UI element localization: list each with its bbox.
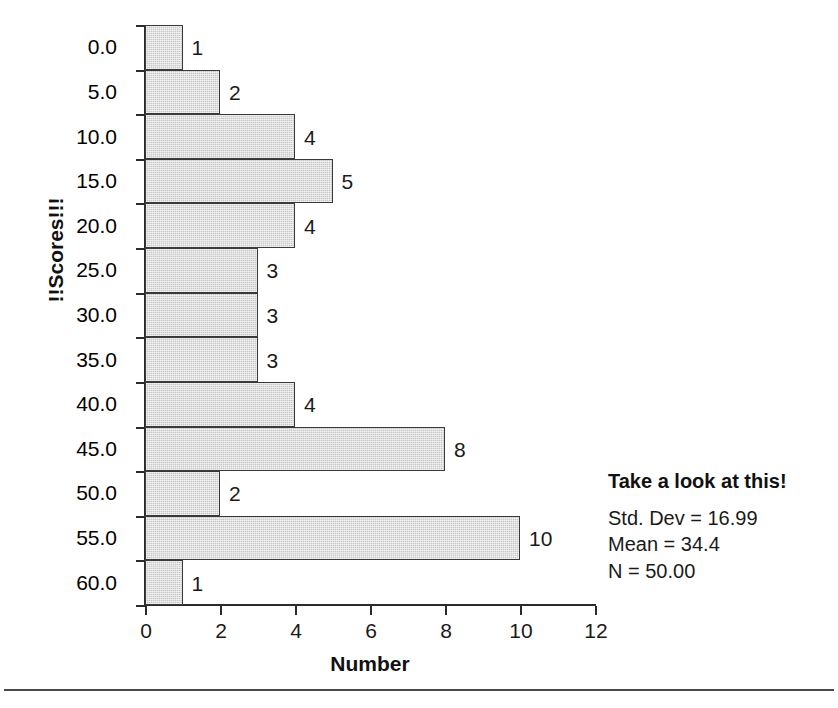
- y-axis-tick: [136, 382, 145, 384]
- bar-row: 3: [145, 293, 595, 338]
- y-axis-tick-label-text: 10.0: [76, 125, 128, 149]
- y-axis-tick-label: 35.0: [0, 337, 128, 382]
- bar[interactable]: [145, 337, 258, 382]
- bar-value-label: 10: [529, 528, 552, 549]
- bar[interactable]: [145, 114, 295, 159]
- stats-line: N = 50.00: [608, 558, 833, 584]
- bar-value-label: 8: [454, 438, 466, 459]
- bar-row: 3: [145, 337, 595, 382]
- bottom-divider-rule: [4, 689, 834, 691]
- y-axis-tick: [136, 516, 145, 518]
- bar-row: 1: [145, 25, 595, 70]
- y-axis-tick-label-text: 40.0: [76, 392, 128, 416]
- y-axis-tick: [136, 159, 145, 161]
- bar[interactable]: [145, 382, 295, 427]
- bar-row: 2: [145, 70, 595, 115]
- y-axis-tick-label: 15.0: [0, 159, 128, 204]
- y-axis-tick-label: 20.0: [0, 203, 128, 248]
- x-axis-tick-label: 0: [140, 620, 152, 641]
- x-axis-title: Number: [145, 652, 595, 676]
- x-axis-tick-label: 12: [584, 620, 607, 641]
- y-axis-tick-label: 10.0: [0, 114, 128, 159]
- bar[interactable]: [145, 25, 183, 70]
- bar-row: 10: [145, 516, 595, 561]
- stats-line: Mean = 34.4: [608, 531, 833, 557]
- plot-area: 12454333482101: [145, 25, 595, 605]
- bar[interactable]: [145, 471, 220, 516]
- y-axis-tick-label-text: 25.0: [76, 258, 128, 282]
- y-axis-tick: [136, 293, 145, 295]
- x-axis-tick: [220, 606, 222, 615]
- y-axis-tick-label: 60.0: [0, 560, 128, 605]
- bar-row: 4: [145, 203, 595, 248]
- bar[interactable]: [145, 516, 520, 561]
- stats-lines: Std. Dev = 16.99Mean = 34.4N = 50.00: [608, 505, 833, 584]
- y-axis-tick: [136, 427, 145, 429]
- y-axis-tick-label: 0.0: [0, 25, 128, 70]
- bar-row: 4: [145, 114, 595, 159]
- bar-value-label: 2: [229, 483, 241, 504]
- y-axis-tick: [136, 560, 145, 562]
- bar-row: 1: [145, 560, 595, 605]
- y-axis-tick-label: 30.0: [0, 293, 128, 338]
- y-axis-tick: [136, 70, 145, 72]
- x-axis-tick: [445, 606, 447, 615]
- bar-value-label: 4: [304, 215, 316, 236]
- y-axis-tick: [136, 114, 145, 116]
- bar-value-label: 3: [267, 260, 279, 281]
- x-axis-tick: [145, 606, 147, 615]
- y-axis-tick: [136, 605, 145, 607]
- bar-value-label: 3: [267, 304, 279, 325]
- y-axis-tick-label-text: 35.0: [76, 348, 128, 372]
- bar-value-label: 3: [267, 349, 279, 370]
- histogram-figure: !!Scores!!! 0.05.010.015.020.025.030.035…: [0, 0, 838, 708]
- x-axis-tick-label: 4: [290, 620, 302, 641]
- y-axis-tick-label-text: 30.0: [76, 303, 128, 327]
- bar-value-label: 2: [229, 81, 241, 102]
- y-axis-tick-label: 25.0: [0, 248, 128, 293]
- y-axis-tick: [136, 248, 145, 250]
- bar[interactable]: [145, 203, 295, 248]
- x-axis-tick: [595, 606, 597, 615]
- bar[interactable]: [145, 427, 445, 472]
- y-axis-tick-label-text: 15.0: [76, 169, 128, 193]
- y-axis-tick: [136, 471, 145, 473]
- y-axis-tick-label: 5.0: [0, 70, 128, 115]
- y-axis-tick-label: 45.0: [0, 427, 128, 472]
- bar[interactable]: [145, 560, 183, 605]
- y-axis-tick-label: 55.0: [0, 516, 128, 561]
- stats-title: Take a look at this!: [608, 470, 833, 493]
- bar-row: 3: [145, 248, 595, 293]
- bar-row: 8: [145, 427, 595, 472]
- y-axis-tick-label-text: 0.0: [88, 35, 128, 59]
- y-axis-tick: [136, 25, 145, 27]
- y-axis-tick-labels: 0.05.010.015.020.025.030.035.040.045.050…: [0, 25, 128, 605]
- bar-row: 4: [145, 382, 595, 427]
- x-axis-tick: [520, 606, 522, 615]
- bar-row: 5: [145, 159, 595, 204]
- bar[interactable]: [145, 248, 258, 293]
- x-axis-tick-label: 2: [215, 620, 227, 641]
- y-axis-tick-label-text: 20.0: [76, 214, 128, 238]
- y-axis-tick-label-text: 55.0: [76, 526, 128, 550]
- y-axis-tick-label-text: 50.0: [76, 481, 128, 505]
- bar-value-label: 1: [192, 572, 204, 593]
- x-axis-tick-label: 8: [440, 620, 452, 641]
- x-axis-tick-label: 10: [509, 620, 532, 641]
- stats-line: Std. Dev = 16.99: [608, 505, 833, 531]
- stats-annotation-block: Take a look at this! Std. Dev = 16.99Mea…: [608, 470, 833, 584]
- bar[interactable]: [145, 159, 333, 204]
- bar-value-label: 5: [342, 171, 354, 192]
- bar[interactable]: [145, 293, 258, 338]
- bar[interactable]: [145, 70, 220, 115]
- y-axis-tick-label-text: 5.0: [88, 80, 128, 104]
- x-axis-tick: [370, 606, 372, 615]
- bar-value-label: 1: [192, 37, 204, 58]
- y-axis-tick-label-text: 45.0: [76, 437, 128, 461]
- bar-value-label: 4: [304, 394, 316, 415]
- bar-row: 2: [145, 471, 595, 516]
- y-axis-tick: [136, 337, 145, 339]
- bar-value-label: 4: [304, 126, 316, 147]
- x-axis-tick: [295, 606, 297, 615]
- y-axis-tick-label: 40.0: [0, 382, 128, 427]
